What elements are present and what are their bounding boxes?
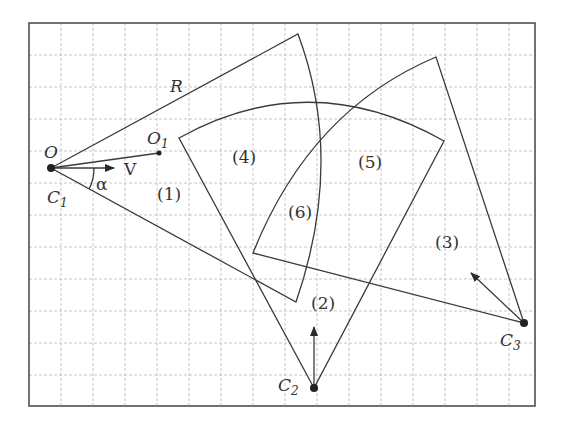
label-r: R xyxy=(169,76,183,96)
point-c2 xyxy=(310,384,318,392)
region-label-5: (5) xyxy=(358,152,382,172)
o-o1-line xyxy=(51,153,159,168)
region-label-1: (1) xyxy=(157,184,181,204)
region-label-3: (3) xyxy=(435,232,459,252)
sector-c3 xyxy=(253,57,524,323)
label-o: O xyxy=(44,142,58,162)
region-label-2: (2) xyxy=(311,293,335,313)
label-c2: C2 xyxy=(278,375,299,398)
point-o xyxy=(47,164,55,172)
diagram-frame xyxy=(29,23,535,406)
region-label-4: (4) xyxy=(232,147,256,167)
label-c1: C1 xyxy=(47,187,68,210)
label-c3: C3 xyxy=(500,330,521,353)
region-label-6: (6) xyxy=(288,202,312,222)
grid xyxy=(29,23,535,406)
point-o1 xyxy=(157,151,162,156)
point-c3 xyxy=(520,319,528,327)
label-alpha: α xyxy=(96,174,108,194)
label-v: V xyxy=(123,159,137,179)
diagram-canvas: O O1 R V α C1 C2 C3 (1) (2) (3) (4) (5) … xyxy=(0,0,564,433)
label-o1: O1 xyxy=(147,128,169,151)
